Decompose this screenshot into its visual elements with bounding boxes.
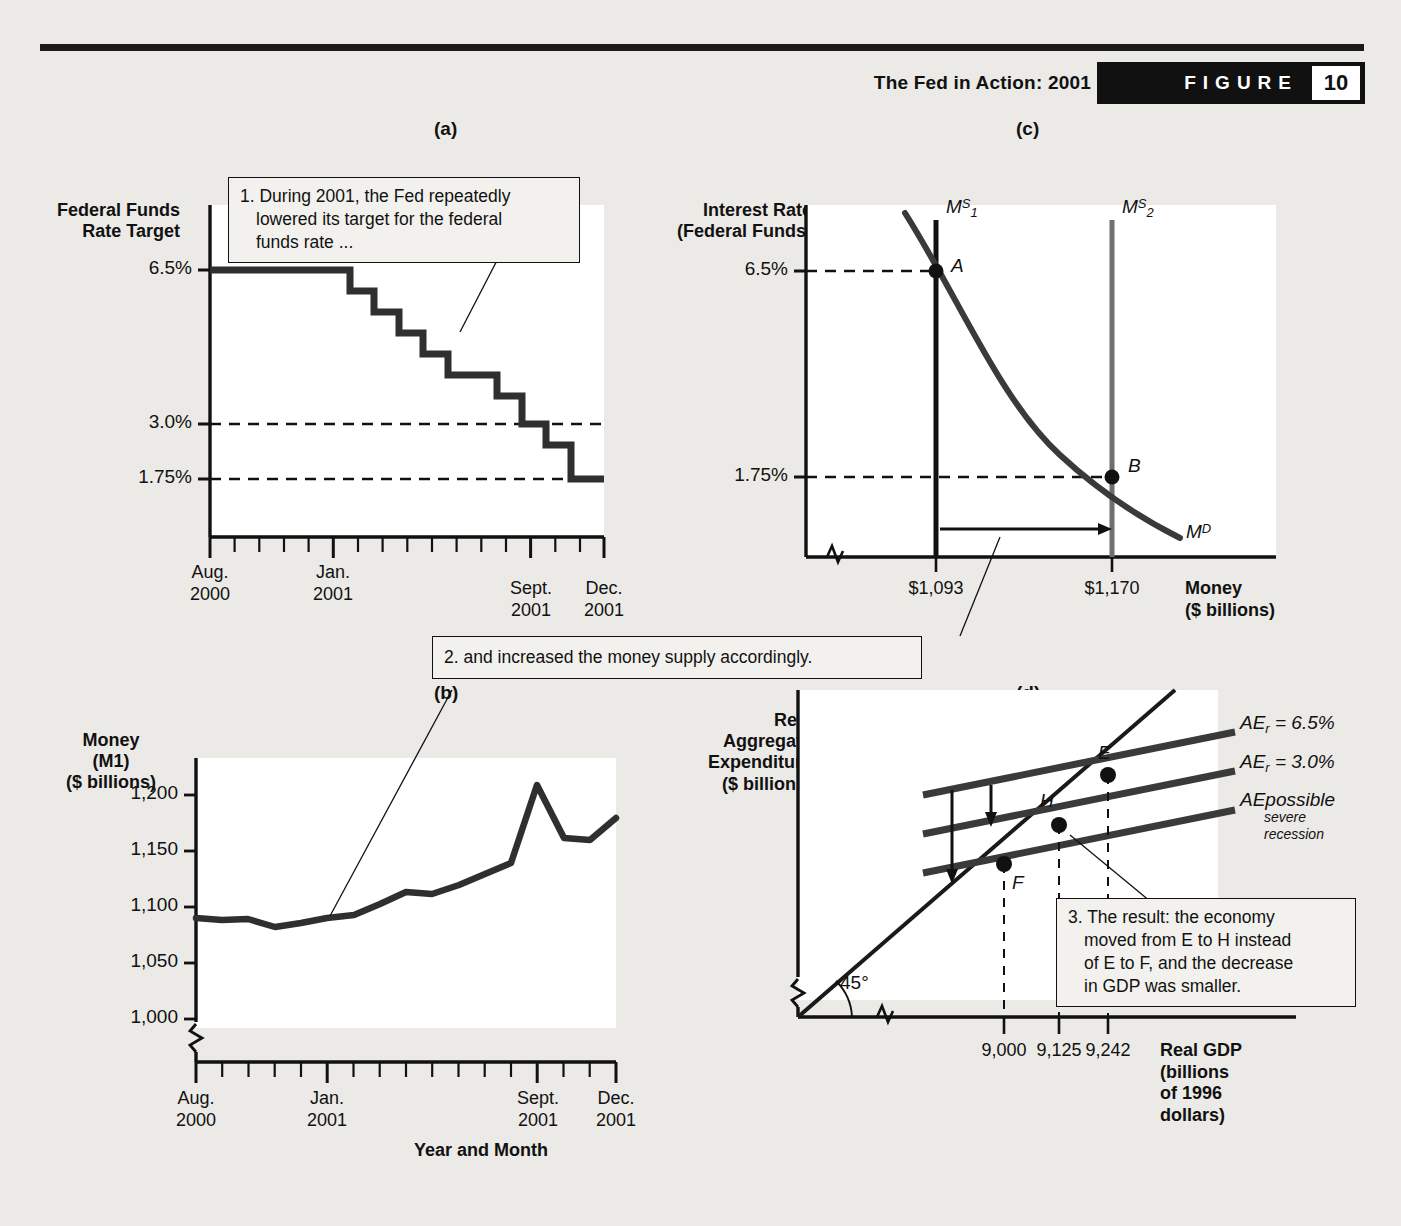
panel-d-point-e-label: E xyxy=(1098,742,1111,764)
panel-d-point-h-dot xyxy=(1051,817,1067,833)
panel-d-x-axis-label: Real GDP (billions of 1996 dollars) xyxy=(1160,1040,1242,1126)
panel-d-point-e-dot xyxy=(1100,767,1116,783)
panel-d-xtick-2: 9,242 xyxy=(1058,1040,1158,1062)
panel-d-point-h-label: H xyxy=(1040,790,1054,812)
panel-d-x-axis-break xyxy=(877,1006,893,1022)
panel-d-ae-mid-label: AEr = 3.0% xyxy=(1240,751,1335,775)
panel-d-ae-line-top xyxy=(923,732,1235,795)
panel-d-angle-label: 45° xyxy=(840,972,869,994)
panel-d-callout-3: 3. The result: the economy moved from E … xyxy=(1056,898,1356,1007)
panel-d-ae-line-bottom xyxy=(923,810,1235,873)
panel-d-ae-bottom-label: AEpossible severe recession xyxy=(1240,790,1335,843)
panel-d-point-f-dot xyxy=(996,856,1012,872)
panel-d-point-f-label: F xyxy=(1012,872,1024,894)
panel-d-ae-line-mid xyxy=(923,771,1235,834)
panel-d-y-axis-break xyxy=(792,979,804,1007)
panel-d-ae-top-label: AEr = 6.5% xyxy=(1240,712,1335,736)
